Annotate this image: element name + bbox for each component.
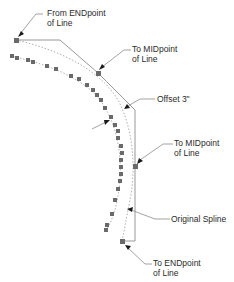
arrowhead-unlabeled	[104, 120, 110, 125]
offset-markers	[10, 54, 124, 232]
leader-to-endpoint	[128, 248, 152, 264]
label-to-endpoint-line1: To ENDpoint	[153, 258, 201, 268]
label-offset-line1: Offset 3"	[157, 94, 190, 104]
label-to-midpoint-right-line1: To MIDpoint	[174, 138, 219, 148]
label-to-endpoint-line2: of Line	[153, 268, 201, 278]
offset-spline-curve	[10, 56, 120, 232]
label-to-midpoint-top-line2: of Line	[132, 54, 177, 64]
arrowhead-to-endpoint	[125, 245, 131, 250]
arrowhead-from-endpoint	[18, 31, 24, 37]
label-to-midpoint-right: To MIDpoint of Line	[174, 138, 219, 158]
label-to-midpoint-top-line1: To MIDpoint	[132, 44, 177, 54]
leader-unlabeled	[92, 122, 106, 129]
label-to-endpoint: To ENDpoint of Line	[153, 258, 201, 278]
spline-offset-diagram: From ENDpoint of Line To MIDpoint of Lin…	[0, 0, 234, 282]
label-original-spline: Original Spline	[171, 214, 226, 224]
mid-top-point-marker	[96, 71, 101, 76]
arrowhead-offset	[124, 104, 130, 109]
arrowheads	[18, 31, 143, 250]
label-from-endpoint-line2: of Line	[47, 18, 106, 28]
start-point-marker	[14, 38, 19, 43]
label-original-spline-line1: Original Spline	[171, 214, 226, 224]
label-offset: Offset 3"	[157, 94, 190, 104]
label-from-endpoint-line1: From ENDpoint	[47, 8, 106, 18]
end-point-marker	[120, 239, 125, 244]
label-from-endpoint: From ENDpoint of Line	[47, 8, 106, 28]
leader-offset	[128, 99, 155, 106]
leader-original-spline	[131, 210, 170, 219]
leader-to-midpoint-top	[102, 50, 131, 67]
mid-right-point-marker	[133, 164, 138, 169]
original-spline-curve	[16, 40, 133, 241]
leader-to-midpoint-right	[140, 144, 173, 160]
label-to-midpoint-right-line2: of Line	[174, 148, 219, 158]
leader-from-endpoint	[20, 14, 43, 34]
label-to-midpoint-top: To MIDpoint of Line	[132, 44, 177, 64]
